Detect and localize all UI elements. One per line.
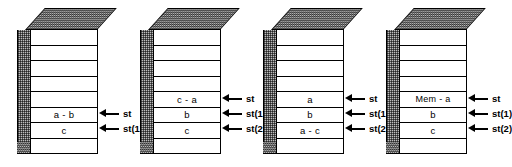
stack-cell: a - b: [31, 108, 97, 124]
stack-cell: [31, 30, 97, 46]
stack-cell: c: [31, 123, 97, 139]
left-arrow-icon: [222, 94, 242, 103]
left-arrow-icon: [345, 109, 365, 118]
box-top-face-3: [271, 8, 363, 30]
stack-cell: [154, 61, 220, 77]
stack-cell: [400, 77, 466, 93]
stack-cell: [31, 139, 97, 154]
stack-cell-column-1: a - b c: [30, 29, 98, 154]
stack-pointer-label: st(1): [492, 109, 512, 119]
stack-cell: [277, 46, 343, 62]
stack-diagram-4: Mem - a b c st st(1) st(2): [386, 8, 496, 158]
stack-pointer-st: st: [345, 92, 377, 105]
stack-cell-column-2: c - a b c: [153, 29, 221, 154]
box-side-foot-3: [263, 142, 277, 154]
box-side-face-1: [17, 30, 31, 142]
stack-diagram-2: c - a b c st st(1) st(2): [140, 8, 250, 158]
left-arrow-icon: [345, 124, 365, 133]
box-side-face-4: [386, 30, 400, 142]
left-arrow-icon: [468, 124, 488, 133]
stack-pointer-label: st: [492, 94, 500, 104]
stack-cell: a - c: [277, 123, 343, 139]
stack-cell: [400, 139, 466, 154]
stack-cell: [277, 30, 343, 46]
stack-cell: [154, 46, 220, 62]
stack-pointer-label: st: [246, 94, 254, 104]
box-side-face-3: [263, 30, 277, 142]
stack-cell: [154, 30, 220, 46]
stack-pointer-st2: st(2): [222, 122, 266, 135]
stack-pointer-st: st: [99, 107, 131, 120]
left-arrow-icon: [468, 94, 488, 103]
left-arrow-icon: [222, 109, 242, 118]
stack-cell: [277, 77, 343, 93]
box-top-face-2: [148, 8, 240, 30]
stack-cell: a: [277, 92, 343, 108]
stack-cell-column-3: a b a - c: [276, 29, 344, 154]
left-arrow-icon: [222, 124, 242, 133]
stack-pointer-st1: st(1): [99, 122, 143, 135]
stack-cell: [277, 139, 343, 154]
box-top-face-4: [394, 8, 486, 30]
stack-cell: Mem - a: [400, 92, 466, 108]
stack-cell: [154, 139, 220, 154]
stack-cell: c - a: [154, 92, 220, 108]
left-arrow-icon: [99, 109, 119, 118]
stack-diagram-3: a b a - c st st(1) st(2): [263, 8, 373, 158]
stack-cell: [400, 61, 466, 77]
stack-pointer-st1: st(1): [222, 107, 266, 120]
stack-pointer-label: st(2): [492, 124, 512, 134]
stack-cell-column-4: Mem - a b c: [399, 29, 467, 154]
stack-pointer-st2: st(2): [345, 122, 389, 135]
left-arrow-icon: [99, 124, 119, 133]
stack-cell: b: [277, 108, 343, 124]
stack-cell: [400, 46, 466, 62]
stack-pointer-label: st: [123, 109, 131, 119]
stack-cell: c: [400, 123, 466, 139]
stack-cell: [277, 61, 343, 77]
stack-cell: b: [154, 108, 220, 124]
left-arrow-icon: [345, 94, 365, 103]
stack-cell: [400, 30, 466, 46]
box-side-face-2: [140, 30, 154, 142]
stack-cell: [31, 46, 97, 62]
stack-cell: [31, 77, 97, 93]
stack-pointer-st1: st(1): [468, 107, 512, 120]
left-arrow-icon: [468, 109, 488, 118]
stack-cell: b: [400, 108, 466, 124]
stack-cell: [31, 92, 97, 108]
stack-diagram-1: a - b c st st(1): [17, 8, 127, 158]
stack-cell: [154, 77, 220, 93]
box-top-face-1: [25, 8, 117, 30]
stack-pointer-st: st: [222, 92, 254, 105]
stack-pointer-label: st: [369, 94, 377, 104]
stack-pointer-st1: st(1): [345, 107, 389, 120]
box-side-foot-1: [17, 142, 31, 154]
box-side-foot-4: [386, 142, 400, 154]
box-side-foot-2: [140, 142, 154, 154]
stack-pointer-st2: st(2): [468, 122, 512, 135]
stack-cell: c: [154, 123, 220, 139]
stack-cell: [31, 61, 97, 77]
stack-pointer-st: st: [468, 92, 500, 105]
